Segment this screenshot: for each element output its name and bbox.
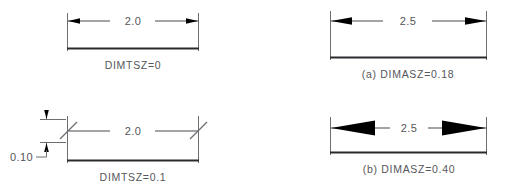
vertical-dimension-value-text: 0.10 — [10, 151, 33, 163]
arrowhead-left-icon — [331, 121, 375, 136]
panel-caption: (b) DIMASZ=0.40 — [363, 163, 456, 175]
dimension-value-text: 2.0 — [125, 15, 142, 27]
dimension-drawing-dimasz-018: 2.5 (a) DIMASZ=0.18 — [260, 0, 521, 93]
panel-dimtsz-01: 2.0 DIMTSZ=0.1 0.10 — [0, 93, 260, 186]
dimension-drawing-dimtsz-01: 2.0 DIMTSZ=0.1 0.10 — [0, 93, 260, 186]
panel-dimtsz-0: 2.0 DIMTSZ=0 — [0, 0, 260, 93]
dimension-drawing-dimtsz-0: 2.0 DIMTSZ=0 — [0, 0, 260, 93]
panel-caption: DIMTSZ=0.1 — [100, 171, 167, 183]
dimension-value-text: 2.0 — [125, 125, 142, 137]
arrowhead-right-icon — [186, 18, 198, 24]
panel-dimasz-040: 2.5 (b) DIMASZ=0.40 — [260, 93, 521, 186]
arrowhead-right-icon — [465, 17, 486, 24]
panel-dimasz-018: 2.5 (a) DIMASZ=0.18 — [260, 0, 521, 93]
arrowhead-left-icon — [331, 17, 352, 24]
arrowhead-right-icon — [442, 121, 486, 136]
dimension-drawing-dimasz-040: 2.5 (b) DIMASZ=0.40 — [260, 93, 521, 186]
drawing-canvas: 2.0 DIMTSZ=0 2.5 (a) DIMASZ=0.18 — [0, 0, 521, 186]
vertical-arrowhead-top-icon — [44, 110, 49, 119]
panel-caption: (a) DIMASZ=0.18 — [362, 68, 455, 80]
dimension-value-text: 2.5 — [400, 15, 417, 27]
dimension-value-text: 2.5 — [401, 122, 418, 134]
arrowhead-left-icon — [68, 18, 80, 24]
panel-caption: DIMTSZ=0 — [105, 59, 162, 71]
